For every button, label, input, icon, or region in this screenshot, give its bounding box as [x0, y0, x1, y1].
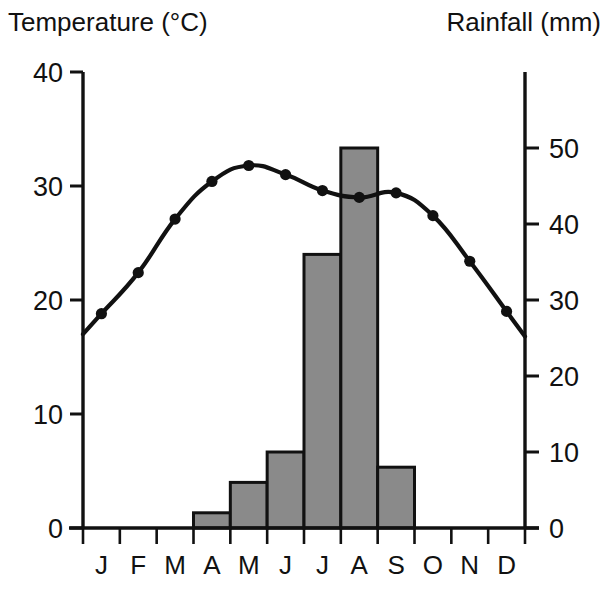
temperature-tick-label: 40: [33, 58, 63, 88]
rainfall-tick-label: 30: [549, 286, 579, 316]
month-label: M: [164, 550, 186, 580]
temperature-point: [390, 187, 401, 198]
month-label: J: [279, 550, 292, 580]
rainfall-tick-label: 0: [549, 514, 564, 544]
temperature-tick-label: 0: [48, 514, 63, 544]
temperature-point: [464, 256, 475, 267]
month-label: S: [387, 550, 404, 580]
month-label: D: [497, 550, 516, 580]
month-label: M: [238, 550, 260, 580]
rainfall-bar: [341, 148, 378, 528]
rainfall-bar: [267, 452, 304, 528]
temperature-point: [354, 192, 365, 203]
temperature-point: [280, 169, 291, 180]
month-label: O: [423, 550, 443, 580]
month-label: N: [460, 550, 479, 580]
left-axis-title: Temperature (°C): [8, 7, 208, 37]
rainfall-bar: [194, 513, 231, 528]
rainfall-tick-label: 20: [549, 362, 579, 392]
temperature-point: [501, 306, 512, 317]
temperature-tick-label: 30: [33, 172, 63, 202]
temperature-point: [243, 160, 254, 171]
rainfall-bar: [304, 254, 341, 528]
month-label: J: [95, 550, 108, 580]
month-label: A: [351, 550, 369, 580]
rainfall-tick-label: 50: [549, 134, 579, 164]
temperature-point: [427, 210, 438, 221]
rainfall-tick-label: 40: [549, 210, 579, 240]
temperature-point: [206, 176, 217, 187]
rainfall-bar: [230, 482, 267, 528]
month-label: F: [130, 550, 146, 580]
temperature-point: [169, 213, 180, 224]
temperature-tick-label: 10: [33, 400, 63, 430]
rainfall-tick-label: 10: [549, 438, 579, 468]
temperature-point: [96, 308, 107, 319]
temperature-tick-label: 20: [33, 286, 63, 316]
month-label: A: [203, 550, 221, 580]
climograph-figure: Temperature (°C) Rainfall (mm) 010203040…: [0, 0, 609, 615]
temperature-point: [317, 185, 328, 196]
temperature-point: [133, 267, 144, 278]
rainfall-bar: [378, 467, 415, 528]
right-axis-title: Rainfall (mm): [446, 7, 601, 37]
month-label: J: [316, 550, 329, 580]
